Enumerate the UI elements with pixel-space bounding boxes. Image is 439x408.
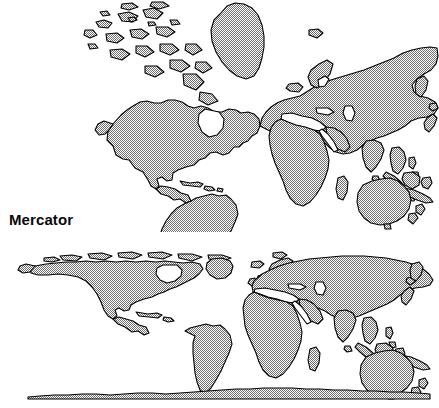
land-svalbard <box>309 29 323 38</box>
mercator-map <box>0 0 439 232</box>
land-new-zealand <box>416 204 425 215</box>
land-puerto-rico <box>217 188 223 192</box>
land-india <box>362 140 384 172</box>
map-projection-comparison-figure: Mercator <box>0 0 439 408</box>
land-kamchatka <box>415 76 428 97</box>
land-canadian-arctic-ea <box>44 252 231 262</box>
land-greenland-ea <box>206 258 233 279</box>
land-sulawesi <box>421 177 432 189</box>
land-hispaniola-ea <box>163 317 174 322</box>
land-cuba <box>180 181 203 187</box>
land-north-america <box>107 100 260 189</box>
land-central-america <box>156 186 191 203</box>
land-australia-ea <box>360 350 414 397</box>
land-central-america-ea <box>113 317 149 335</box>
land-iceland-ea <box>251 261 264 268</box>
land-new-zealand-south <box>408 213 418 224</box>
land-madagascar <box>336 176 348 200</box>
land-sri-lanka-ea <box>344 346 352 352</box>
land-australia <box>357 178 411 225</box>
land-canadian-arctic <box>84 2 218 105</box>
cylindrical-equal-area-map <box>0 248 439 408</box>
panel-cylindrical-equal-area: Cylindrical equal area <box>0 248 439 408</box>
land-india-ea <box>334 310 356 342</box>
land-south-america-ea <box>185 324 232 394</box>
land-cuba-ea <box>136 312 162 318</box>
land-philippines <box>409 157 416 169</box>
label-mercator: Mercator <box>9 211 73 228</box>
land-indochina <box>390 147 406 174</box>
land-philippines-ea <box>386 327 393 339</box>
land-south-america <box>157 194 238 232</box>
land-tasmania <box>384 224 391 229</box>
land-new-zealand-ea <box>419 378 428 389</box>
land-hispaniola <box>204 186 215 191</box>
panel-mercator: Mercator <box>0 0 439 232</box>
land-greenland <box>211 3 264 79</box>
land-svalbard-ea <box>273 252 287 259</box>
land-iceland <box>286 83 303 92</box>
land-indochina-ea <box>362 317 378 344</box>
land-madagascar-ea <box>308 347 320 371</box>
